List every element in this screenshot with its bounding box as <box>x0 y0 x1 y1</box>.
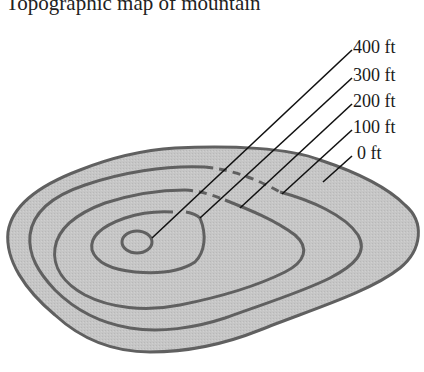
label-0ft: 0 ft <box>357 144 382 162</box>
label-300ft: 300 ft <box>353 66 396 84</box>
label-400ft: 400 ft <box>353 38 396 56</box>
label-200ft: 200 ft <box>353 92 396 110</box>
label-100ft: 100 ft <box>353 118 396 136</box>
